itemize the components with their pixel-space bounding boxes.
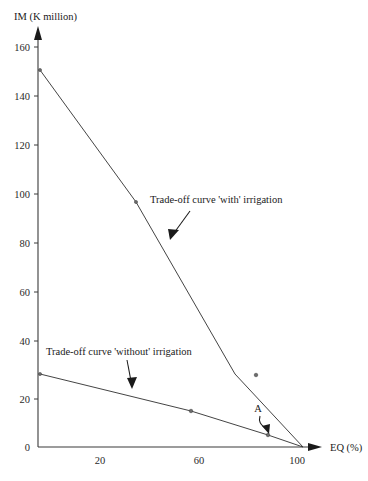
y-tick-marks (34, 47, 38, 399)
series-with-irrigation (38, 68, 303, 447)
annotation-point-a-label: A (254, 403, 262, 414)
x-axis-title: EQ (%) (330, 442, 363, 454)
series-with-irrigation-line (40, 70, 303, 447)
annotation-without-irrigation-arrowhead (127, 377, 137, 389)
annotation-without-irrigation-label: Trade-off curve 'without' irrigation (46, 346, 193, 357)
data-point (189, 409, 193, 413)
x-tick-label-20: 20 (95, 455, 106, 466)
y-tick-labels: 160 140 120 100 80 60 40 20 0 (14, 42, 30, 453)
y-tick-label-40: 40 (20, 336, 31, 347)
x-axis-arrowhead (308, 443, 322, 451)
series-without-irrigation-line (40, 374, 303, 447)
x-tick-labels: 20 60 100 (95, 455, 305, 466)
tradeoff-curve-chart: 160 140 120 100 80 60 40 20 0 20 60 100 … (0, 0, 368, 481)
data-point (134, 200, 137, 203)
annotation-without-irrigation: Trade-off curve 'without' irrigation (46, 346, 193, 389)
chart-container: 160 140 120 100 80 60 40 20 0 20 60 100 … (0, 0, 368, 481)
data-point (38, 68, 41, 71)
y-tick-label-80: 80 (20, 238, 31, 249)
y-tick-label-60: 60 (20, 287, 31, 298)
annotation-point-a: A (254, 403, 270, 434)
series-without-irrigation (38, 372, 303, 447)
data-point-a (266, 433, 270, 437)
annotation-with-irrigation-arrowhead (168, 229, 179, 240)
y-tick-label-0: 0 (25, 442, 30, 453)
y-tick-label-160: 160 (14, 42, 30, 53)
y-tick-label-120: 120 (14, 140, 30, 151)
x-tick-label-100: 100 (289, 455, 305, 466)
y-tick-label-140: 140 (14, 91, 30, 102)
x-tick-label-60: 60 (194, 455, 205, 466)
annotation-with-irrigation-label: Trade-off curve 'with' irrigation (150, 194, 283, 205)
annotation-with-irrigation-leader (174, 211, 190, 233)
y-axis-title: IM (K million) (14, 11, 77, 23)
y-axis-arrowhead (34, 26, 42, 40)
data-point (254, 373, 258, 377)
axis-group (34, 26, 322, 451)
annotation-point-a-arrowhead (262, 424, 270, 434)
data-point (38, 372, 41, 375)
y-tick-label-100: 100 (14, 189, 30, 200)
annotation-with-irrigation: Trade-off curve 'with' irrigation (150, 194, 283, 240)
y-tick-label-20: 20 (20, 394, 31, 405)
